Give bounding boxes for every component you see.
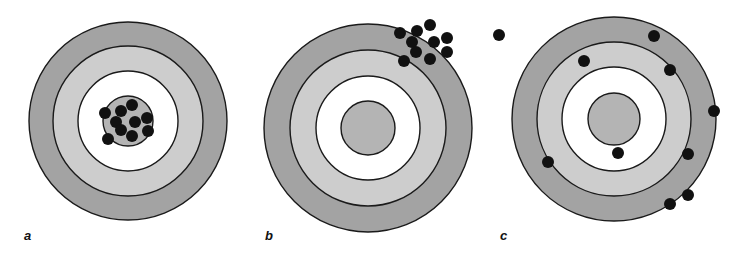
shot-mark: [441, 46, 453, 58]
target-c: [493, 17, 720, 221]
shot-mark: [612, 147, 624, 159]
shot-mark: [129, 116, 141, 128]
shot-mark: [664, 64, 676, 76]
shot-mark: [126, 130, 138, 142]
shot-mark: [411, 25, 423, 37]
panel-label-b: b: [265, 229, 273, 242]
shot-mark: [115, 124, 127, 136]
shot-mark: [99, 107, 111, 119]
shot-mark: [115, 105, 127, 117]
shot-mark: [102, 133, 114, 145]
target-diagram: [0, 0, 743, 258]
target-a: [29, 22, 227, 220]
shot-mark: [493, 29, 505, 41]
bullseye: [588, 93, 640, 145]
shot-mark: [441, 32, 453, 44]
shot-mark: [648, 30, 660, 42]
bullseye: [341, 101, 395, 155]
shot-mark: [126, 99, 138, 111]
panel-label-c: c: [500, 229, 507, 242]
shot-mark: [410, 46, 422, 58]
shot-mark: [664, 198, 676, 210]
target-b: [264, 19, 472, 232]
shot-mark: [682, 148, 694, 160]
shot-mark: [424, 53, 436, 65]
shot-mark: [141, 112, 153, 124]
panel-label-a: a: [24, 229, 31, 242]
shot-mark: [708, 105, 720, 117]
shot-mark: [398, 55, 410, 67]
shot-mark: [142, 125, 154, 137]
shot-mark: [682, 189, 694, 201]
shot-mark: [578, 55, 590, 67]
shot-mark: [424, 19, 436, 31]
shot-mark: [394, 27, 406, 39]
shot-mark: [542, 156, 554, 168]
shot-mark: [428, 36, 440, 48]
